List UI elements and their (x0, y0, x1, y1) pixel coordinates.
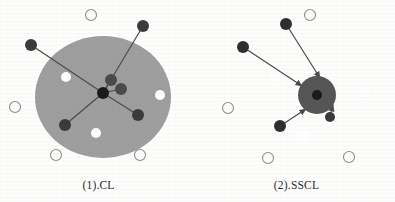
figure-root: (1).CL (2).SSCL (0, 0, 395, 202)
inside-sample-circle (300, 131, 310, 141)
anchor-node-group (97, 87, 109, 99)
negative-sample-node (280, 18, 292, 30)
negative-sample-node (325, 112, 335, 122)
anchor-node (97, 87, 109, 99)
negative-sample-node (274, 120, 286, 132)
anchor-node (312, 90, 322, 100)
negative-sample-node (59, 119, 71, 131)
outside-sample-group (223, 10, 355, 164)
positive-sample-node (105, 74, 117, 86)
inside-sample-circle (155, 90, 165, 100)
open-sample-circle (86, 10, 97, 21)
negative-sample-node (25, 39, 37, 51)
open-sample-circle (51, 150, 62, 161)
open-sample-circle (344, 152, 355, 163)
sscl-diagram (198, 0, 395, 180)
caption-cl: (1).CL (0, 179, 197, 191)
panel-sscl: (2).SSCL (198, 0, 395, 202)
edge-arrow (286, 24, 320, 78)
anchor-node-group (312, 90, 322, 100)
open-sample-circle (305, 10, 316, 21)
open-sample-circle (135, 150, 146, 161)
negative-sample-node (237, 41, 249, 53)
negative-sample-node (132, 109, 144, 121)
panel-cl: (1).CL (0, 0, 197, 202)
positive-sample-node (115, 83, 127, 95)
open-sample-circle (223, 103, 234, 114)
open-sample-circle (10, 102, 21, 113)
inside-sample-circle (91, 128, 101, 138)
cl-diagram (0, 0, 197, 180)
inside-sample-circle (360, 87, 370, 97)
inside-sample-circle (61, 72, 71, 82)
negative-sample-node (137, 20, 149, 32)
caption-sscl: (2).SSCL (198, 179, 395, 191)
open-sample-circle (263, 153, 274, 164)
inside-sample-circle (270, 73, 280, 83)
